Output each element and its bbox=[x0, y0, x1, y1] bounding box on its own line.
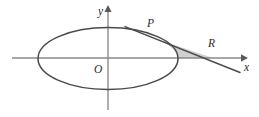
y-axis-label: y bbox=[97, 5, 104, 18]
geometry-figure: y x O P R bbox=[0, 0, 259, 117]
origin-label: O bbox=[94, 63, 103, 75]
point-r-label: R bbox=[207, 37, 215, 49]
point-p-label: P bbox=[146, 17, 154, 29]
x-axis-label: x bbox=[243, 61, 250, 73]
label-layer: y x O P R bbox=[0, 0, 259, 117]
